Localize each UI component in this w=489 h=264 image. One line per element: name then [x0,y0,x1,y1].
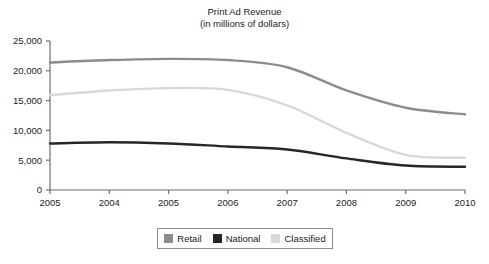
y-axis: 05,00010,00015,00020,00025,000 [13,35,50,195]
x-axis-tick-label: 2010 [454,197,475,208]
legend-swatch-national [213,234,222,243]
legend-label-national: National [226,234,261,244]
legend-label-retail: Retail [177,234,201,244]
legend-item-classified[interactable]: Classified [271,234,325,244]
legend-label-classified: Classified [284,234,325,244]
chart-legend: Retail National Classified [157,228,333,249]
legend-item-retail[interactable]: Retail [164,234,201,244]
legend-swatch-classified [271,234,280,243]
legend-item-national[interactable]: National [213,234,261,244]
y-axis-tick-label: 25,000 [13,35,42,46]
x-axis-tick-label: 2004 [99,197,120,208]
y-axis-tick-label: 20,000 [13,65,42,76]
x-axis-tick-label: 2006 [217,197,238,208]
x-axis-tick-label: 2005 [158,197,179,208]
y-axis-tick-label: 10,000 [13,125,42,136]
legend-swatch-retail [164,234,173,243]
x-axis-tick-label: 2009 [395,197,416,208]
x-axis-tick-label: 2008 [336,197,357,208]
chart-series-lines [50,59,465,167]
line-chart-plot: 05,00010,00015,00020,00025,000 200520042… [0,0,489,264]
y-axis-tick-label: 15,000 [13,95,42,106]
series-line-retail [50,59,465,114]
x-axis: 20052004200520062007200820092010 [39,190,475,208]
x-axis-tick-label: 2005 [39,197,60,208]
y-axis-tick-label: 0 [37,184,42,195]
y-axis-tick-label: 5,000 [18,155,42,166]
chart-figure: Print Ad Revenue (in millions of dollars… [0,0,489,264]
x-axis-tick-label: 2007 [277,197,298,208]
